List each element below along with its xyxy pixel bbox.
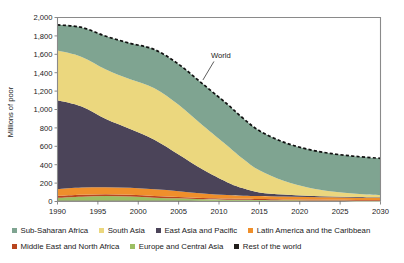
x-tick-label: 2005 [170,207,187,216]
y-tick-label: 200 [40,179,53,188]
legend-swatch-icon [156,228,161,233]
world-annotation-leader-line [203,61,214,80]
legend-item-latin-america-and-the-caribbean[interactable]: Latin America and the Caribbean [248,226,370,235]
y-tick-label: 600 [40,142,53,151]
x-tick-label: 2000 [130,207,147,216]
legend-label: Latin America and the Caribbean [257,226,371,235]
legend-swatch-icon [12,244,17,249]
x-tick-label: 1995 [89,207,106,216]
x-axis-tick-marks [58,202,381,205]
y-axis-title: Millions of poor [6,86,15,137]
legend-label: East Asia and Pacific [164,226,237,235]
legend-item-east-asia-and-pacific[interactable]: East Asia and Pacific [156,226,237,235]
world-annotation-label: World [211,51,231,60]
legend-item-rest-of-the-world[interactable]: Rest of the world [234,242,301,251]
legend-item-middle-east-and-north-africa[interactable]: Middle East and North Africa [12,242,119,251]
x-tick-label: 2020 [291,207,308,216]
legend-item-sub-saharan-africa[interactable]: Sub-Saharan Africa [12,226,88,235]
y-tick-label: 1,800 [33,32,52,41]
legend-item-south-asia[interactable]: South Asia [99,226,145,235]
legend-row-bottom: Middle East and North AfricaEurope and C… [12,238,396,254]
poverty-stacked-area-figure: Millions of poor 02004006008001,0001,200… [0,0,404,263]
legend-row-top: Sub-Saharan AfricaSouth AsiaEast Asia an… [12,222,396,238]
legend-label: South Asia [108,226,145,235]
x-tick-label: 2010 [211,207,228,216]
y-tick-label: 800 [40,124,53,133]
y-tick-label: 1,200 [33,87,52,96]
y-axis-title-group: Millions of poor [6,86,15,137]
legend-label: Europe and Central Asia [139,242,224,251]
legend-swatch-icon [234,244,239,249]
legend-swatch-icon [12,228,17,233]
y-tick-label: 1,000 [33,105,52,114]
y-tick-label: 400 [40,161,53,170]
chart-canvas: Millions of poor 02004006008001,0001,200… [0,0,404,220]
y-tick-label: 2,000 [33,13,52,22]
legend-label: Sub-Saharan Africa [21,226,89,235]
legend-item-europe-and-central-asia[interactable]: Europe and Central Asia [130,242,223,251]
x-tick-label: 2015 [251,207,268,216]
y-tick-label: 1,600 [33,50,52,59]
legend-swatch-icon [99,228,104,233]
y-axis-tick-labels: 02004006008001,0001,2001,4001,6001,8002,… [33,13,52,206]
chart-legend: Sub-Saharan AfricaSouth AsiaEast Asia an… [0,220,404,263]
x-tick-label: 1990 [49,207,66,216]
legend-swatch-icon [130,244,135,249]
x-tick-label: 2025 [332,207,349,216]
legend-label: Rest of the world [243,242,302,251]
legend-label: Middle East and North Africa [21,242,120,251]
world-annotation-group: World [203,51,231,80]
legend-swatch-icon [248,228,253,233]
x-tick-label: 2030 [372,207,389,216]
y-tick-label: 0 [48,197,52,206]
y-tick-label: 1,400 [33,69,52,78]
x-axis-tick-labels: 199019952000200520102015202020252030 [49,207,389,216]
